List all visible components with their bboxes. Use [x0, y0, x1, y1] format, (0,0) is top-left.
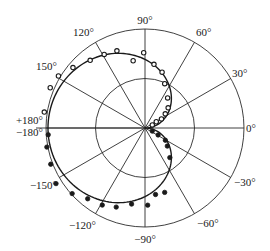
measured-negative-point-12 [168, 155, 172, 159]
measured-negative-point-1 [45, 145, 49, 149]
measured-positive-point-11 [163, 81, 167, 85]
measured-positive-point-16 [154, 120, 158, 124]
measured-negative-point-13 [165, 144, 169, 148]
angle-label-neg180: −180° [16, 126, 43, 138]
angle-label-neg90: −90° [134, 233, 156, 245]
spoke-neg60 [145, 128, 195, 214]
measured-negative-point-9 [145, 203, 149, 207]
angle-labels-layer: 0°30°60°90°120°150°+180°−180°−30°−60°−90… [16, 14, 256, 245]
measured-negative-point-11 [162, 190, 166, 194]
measured-positive-point-15 [159, 117, 163, 121]
spoke-neg150 [59, 128, 145, 178]
measured-negative-point-15 [156, 133, 160, 137]
measured-positive-point-3 [71, 65, 75, 69]
measured-negative-point-16 [150, 129, 154, 133]
measured-negative-point-10 [153, 192, 157, 196]
measured-negative-point-2 [49, 162, 53, 166]
spoke-150 [59, 79, 145, 129]
measured-negative-point-7 [114, 205, 118, 209]
measured-positive-point-13 [166, 106, 170, 110]
measured-negative-point-8 [129, 202, 133, 206]
measured-positive-point-8 [141, 51, 145, 55]
measured-positive-point-5 [102, 52, 106, 56]
angle-label-0: 0° [246, 122, 256, 134]
angle-label-90: 90° [137, 14, 152, 26]
polar-grid [36, 29, 244, 227]
angle-label-150: 150° [36, 60, 57, 72]
measured-negative-point-4 [70, 191, 74, 195]
angle-label-neg30: −30° [234, 176, 256, 188]
spoke-60 [145, 42, 195, 128]
data-points-layer [42, 49, 172, 210]
measured-positive-point-1 [48, 86, 52, 90]
measured-positive-point-12 [165, 96, 169, 100]
measured-positive-point-4 [88, 58, 92, 62]
measured-negative-point-14 [163, 138, 167, 142]
measured-negative-point-5 [85, 197, 89, 201]
measured-positive-point-10 [160, 70, 164, 74]
angle-label-30: 30° [232, 67, 247, 79]
polar-chart: 0°30°60°90°120°150°+180°−180°−30°−60°−90… [0, 0, 270, 251]
measured-negative-point-6 [100, 203, 104, 207]
angle-label-180: +180° [16, 114, 43, 126]
angle-label-60: 60° [196, 26, 211, 38]
measured-positive-point-9 [152, 62, 156, 66]
angle-label-neg150: −150° [30, 179, 57, 191]
angle-label-120: 120° [73, 26, 94, 38]
measured-positive-point-6 [115, 49, 119, 53]
measured-negative-point-0 [46, 133, 50, 137]
measured-positive-point-14 [163, 112, 167, 116]
measured-positive-point-17 [150, 123, 154, 127]
angle-label-neg60: −60° [197, 217, 219, 229]
measured-positive-point-7 [131, 59, 135, 63]
angle-label-neg120: −120° [69, 219, 96, 231]
measured-positive-point-2 [56, 74, 60, 78]
